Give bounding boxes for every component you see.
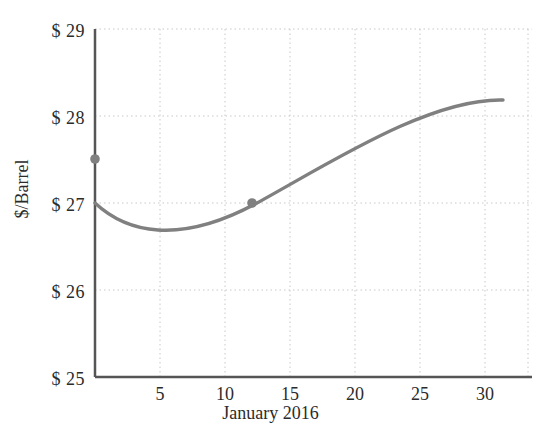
x-tick-label-5: 5 bbox=[140, 385, 180, 403]
x-tick-label-10: 10 bbox=[205, 385, 245, 403]
y-tick-label-26: $ 26 bbox=[30, 283, 85, 301]
x-tick-label-15: 15 bbox=[270, 385, 310, 403]
y-tick-label-29: $ 29 bbox=[30, 22, 85, 40]
x-tick-label-25: 25 bbox=[400, 385, 440, 403]
minimum-point-marker bbox=[247, 198, 257, 208]
start-point-marker bbox=[90, 154, 100, 164]
x-axis-title: January 2016 bbox=[0, 404, 541, 422]
y-tick-label-25: $ 25 bbox=[30, 370, 85, 388]
price-curve bbox=[95, 100, 503, 230]
oil-price-chart: $ 29 $ 28 $ 27 $ 26 $ 25 5 10 15 20 25 3… bbox=[0, 0, 541, 436]
y-axis-title: $/Barrel bbox=[13, 129, 31, 249]
y-tick-label-28: $ 28 bbox=[30, 109, 85, 127]
x-tick-label-30: 30 bbox=[465, 385, 505, 403]
x-tick-label-20: 20 bbox=[335, 385, 375, 403]
y-tick-label-27: $ 27 bbox=[30, 196, 85, 214]
horizontal-gridlines bbox=[95, 29, 532, 290]
